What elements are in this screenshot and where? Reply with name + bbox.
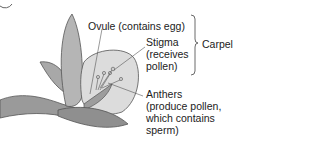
label-stigma-line1: Stigma <box>146 36 189 48</box>
label-stigma-line3: pollen) <box>146 60 189 72</box>
label-stigma-line2: (receives <box>146 48 189 60</box>
label-anthers: Anthers (produce pollen, which contains … <box>146 88 221 136</box>
label-stigma: Stigma (receives pollen) <box>146 36 189 72</box>
label-anthers-line4: sperm) <box>146 124 221 136</box>
label-anthers-line2: (produce pollen, <box>146 100 221 112</box>
label-ovule: Ovule (contains egg) <box>88 20 185 32</box>
label-anthers-line3: which contains <box>146 112 221 124</box>
label-carpel: Carpel <box>202 38 233 50</box>
label-anthers-line1: Anthers <box>146 88 221 100</box>
